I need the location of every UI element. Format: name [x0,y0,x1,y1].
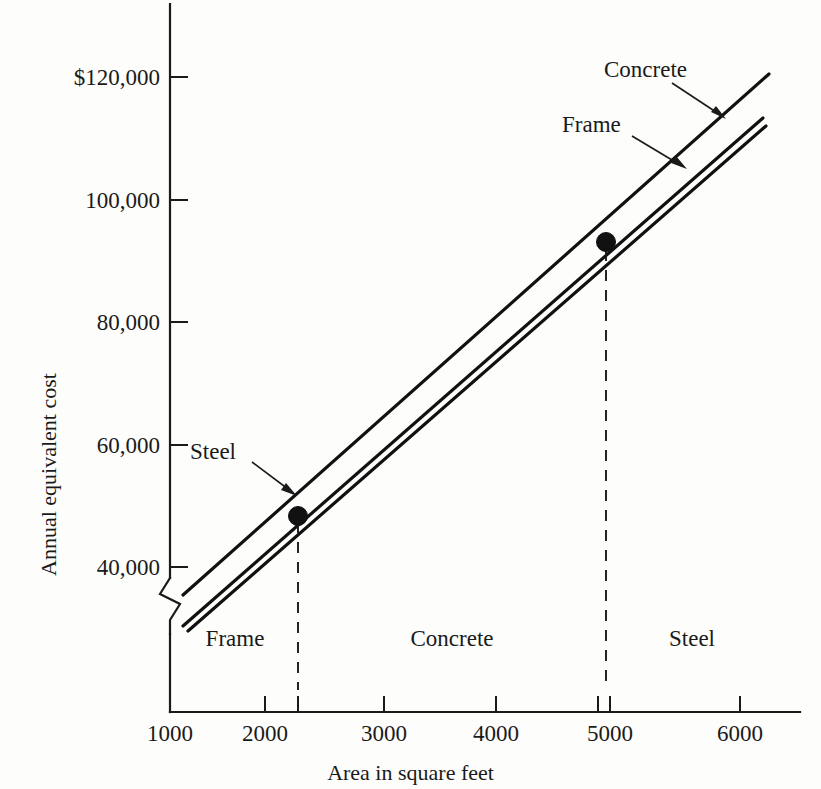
frame-cost-line [183,74,769,595]
y-tick-label-40000: 40,000 [0,556,160,579]
steel-callout-label: Steel [190,440,236,463]
chart-figure: $120,000 100,000 80,000 60,000 40,000 10… [0,0,821,789]
x-tick-label-3000: 3000 [324,722,444,745]
concrete-cost-line [183,118,763,626]
y-axis-title: Annual equivalent cost [38,373,60,576]
x-tick-label-4000: 4000 [436,722,556,745]
y-tick-label-120000: $120,000 [0,66,160,89]
region-label-frame: Frame [175,627,295,650]
breakeven-2-marker [597,233,616,252]
x-tick-label-5000: 5000 [550,722,670,745]
frame-callout-label: Frame [562,113,621,136]
breakeven-1-marker [289,507,308,526]
y-tick-label-60000: 60,000 [0,434,160,457]
x-axis-title: Area in square feet [0,762,821,784]
concrete-callout-label: Concrete [604,58,687,81]
y-axis-break-zigzag [160,578,180,634]
y-tick-label-80000: 80,000 [0,311,160,334]
y-tick-label-100000: 100,000 [0,189,160,212]
x-tick-label-2000: 2000 [205,722,325,745]
chart-canvas [0,0,821,789]
region-label-steel: Steel [632,627,752,650]
region-label-concrete: Concrete [392,627,512,650]
steel-cost-line [188,126,766,631]
x-tick-label-6000: 6000 [680,722,800,745]
